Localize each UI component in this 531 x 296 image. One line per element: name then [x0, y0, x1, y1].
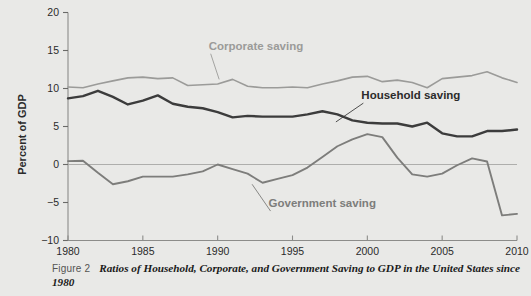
x-tick-label: 2005 [430, 245, 454, 257]
y-tick-label: 10 [47, 82, 59, 94]
series-label-corporate-saving: Corporate saving [209, 40, 304, 52]
x-tick-label: 1995 [281, 245, 305, 257]
x-tick-label: 1985 [131, 245, 155, 257]
x-tick-label: 2010 [505, 245, 529, 257]
y-tick-label: 15 [47, 44, 59, 56]
y-tick-label: 20 [47, 6, 59, 18]
series-label-government-saving: Government saving [269, 197, 376, 209]
x-tick-label: 2000 [356, 245, 380, 257]
leader-line [211, 54, 219, 80]
annotation-leader-lines [211, 54, 364, 211]
figure-caption: Figure 2Ratios of Household, Corporate, … [52, 262, 522, 289]
y-tick-label: 0 [53, 158, 59, 170]
chart-plot-area: −10−505101520 19801985199019952000200520… [0, 0, 531, 262]
series-line-corporate-saving [68, 72, 517, 88]
y-tick-label: −5 [47, 196, 59, 208]
series-label-household-saving: Household saving [361, 89, 460, 101]
x-tick-label: 1990 [206, 245, 230, 257]
y-axis-title-text: Percent of GDP [16, 94, 28, 175]
y-axis-title: Percent of GDP [16, 94, 28, 175]
figure-caption-label: Figure 2 [52, 263, 90, 274]
x-tick-label: 1980 [56, 245, 80, 257]
x-axis-tick-labels: 1980198519901995200020052010 [56, 245, 529, 257]
y-tick-label: 5 [53, 120, 59, 132]
y-axis-tick-labels: −10−505101520 [41, 6, 59, 246]
figure-container: −10−505101520 19801985199019952000200520… [0, 0, 531, 296]
figure-caption-title: Ratios of Household, Corporate, and Gove… [52, 262, 520, 288]
line-chart-svg: −10−505101520 19801985199019952000200520… [0, 0, 531, 262]
